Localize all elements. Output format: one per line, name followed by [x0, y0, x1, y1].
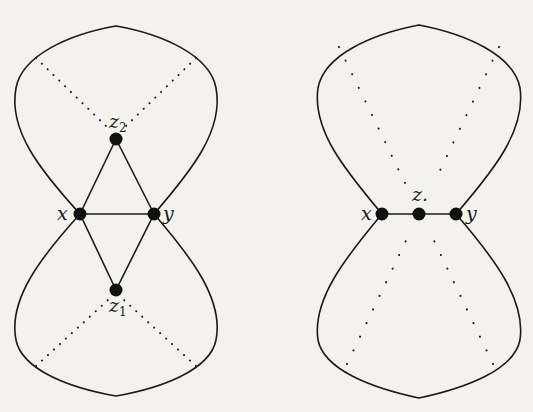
label-z: z. [411, 183, 428, 205]
node-y-right [450, 208, 463, 221]
label-y-left: y [162, 202, 174, 224]
label-z2: z2 [108, 110, 127, 135]
label-x-left: x [57, 202, 68, 224]
label-y-right: y [465, 202, 477, 224]
figure-canvas: x y z2 z1 x z. y [0, 0, 533, 412]
node-x-left [74, 208, 87, 221]
node-z [413, 208, 426, 221]
left-graph [15, 26, 217, 396]
node-x-right [376, 208, 389, 221]
label-x-right: x [361, 202, 372, 224]
edge-x-z1 [80, 214, 116, 290]
node-y-left [148, 208, 161, 221]
edge-x-z2 [80, 139, 116, 214]
right-lower-loop [317, 214, 520, 398]
label-z1: z1 [108, 294, 127, 319]
edge-y-z2 [116, 139, 154, 214]
edge-y-z1 [116, 214, 154, 290]
